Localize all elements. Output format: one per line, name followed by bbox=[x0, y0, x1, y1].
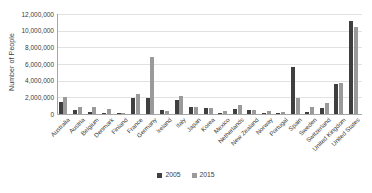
bar-2015 bbox=[165, 111, 169, 114]
y-tick-label: 6,000,000 bbox=[4, 61, 54, 68]
bar-2005 bbox=[175, 100, 179, 114]
bar-2015 bbox=[339, 83, 343, 114]
bar-2005 bbox=[218, 113, 222, 114]
bar-group bbox=[188, 14, 203, 114]
bar-2005 bbox=[189, 107, 193, 115]
bar-group bbox=[130, 14, 145, 114]
bar-group bbox=[318, 14, 333, 114]
bar-group bbox=[347, 14, 362, 114]
bar-2005 bbox=[320, 108, 324, 114]
bar-2015 bbox=[238, 105, 242, 114]
bar-group bbox=[304, 14, 319, 114]
chart-legend: 20052015 bbox=[0, 171, 372, 179]
bar-2015 bbox=[354, 27, 358, 115]
bar-2005 bbox=[233, 109, 237, 114]
bar-2005 bbox=[160, 110, 164, 114]
y-tick-label: 12,000,000 bbox=[4, 11, 54, 18]
bar-group bbox=[217, 14, 232, 114]
bar-2015 bbox=[179, 96, 183, 114]
bar-group bbox=[57, 14, 72, 114]
bar-2015 bbox=[281, 112, 285, 114]
bar-group bbox=[86, 14, 101, 114]
bar-group bbox=[289, 14, 304, 114]
legend-item[interactable]: 2005 bbox=[157, 171, 180, 179]
bar-2015 bbox=[194, 107, 198, 114]
bar-2015 bbox=[325, 103, 329, 114]
legend-item[interactable]: 2015 bbox=[192, 171, 215, 179]
y-tick-label: 8,000,000 bbox=[4, 44, 54, 51]
legend-swatch-icon bbox=[192, 173, 197, 178]
bar-2015 bbox=[150, 57, 154, 115]
bar-group bbox=[159, 14, 174, 114]
bar-2015 bbox=[267, 111, 271, 114]
y-tick-label: 2,000,000 bbox=[4, 94, 54, 101]
bar-group bbox=[333, 14, 348, 114]
bar-2015 bbox=[252, 110, 256, 114]
bar-chart: Number of People 12,000,00010,000,0008,0… bbox=[0, 0, 372, 193]
bar-2015 bbox=[78, 107, 82, 115]
bar-group bbox=[260, 14, 275, 114]
y-tick-label: 4,000,000 bbox=[4, 77, 54, 84]
bar-2015 bbox=[223, 111, 227, 114]
bar-group bbox=[144, 14, 159, 114]
bar-2005 bbox=[247, 110, 251, 114]
x-axis-tick-labels: AustraliaAustriaBelgiumDenmarkFinlandFra… bbox=[57, 116, 362, 162]
bar-2015 bbox=[296, 98, 300, 114]
bar-2005 bbox=[334, 84, 338, 114]
bar-2005 bbox=[291, 67, 295, 115]
bar-2005 bbox=[276, 113, 280, 114]
bar-group bbox=[173, 14, 188, 114]
y-axis-tick-labels: 12,000,00010,000,0008,000,0006,000,0004,… bbox=[0, 14, 54, 114]
bar-2015 bbox=[92, 107, 96, 115]
bar-2005 bbox=[204, 108, 208, 114]
bar-2015 bbox=[209, 108, 213, 114]
bar-2005 bbox=[117, 113, 121, 114]
bar-group bbox=[115, 14, 130, 114]
bar-group bbox=[246, 14, 261, 114]
legend-label: 2005 bbox=[165, 171, 180, 179]
bar-group bbox=[101, 14, 116, 114]
x-axis-line bbox=[57, 114, 362, 115]
bar-2005 bbox=[349, 21, 353, 114]
bar-2015 bbox=[107, 109, 111, 114]
bar-2015 bbox=[121, 113, 125, 114]
bar-2005 bbox=[146, 98, 150, 114]
bar-2005 bbox=[305, 112, 309, 115]
bar-group bbox=[72, 14, 87, 114]
bar-group bbox=[231, 14, 246, 114]
bar-group bbox=[202, 14, 217, 114]
legend-swatch-icon bbox=[157, 173, 162, 178]
bar-2005 bbox=[131, 98, 135, 114]
bar-2015 bbox=[136, 94, 140, 114]
legend-label: 2015 bbox=[200, 171, 215, 179]
bars-layer bbox=[57, 14, 362, 114]
bar-2005 bbox=[88, 112, 92, 115]
bar-2005 bbox=[102, 113, 106, 114]
bar-2005 bbox=[59, 102, 63, 115]
bar-2005 bbox=[262, 113, 266, 114]
y-tick-label: 0 bbox=[4, 111, 54, 118]
bar-2015 bbox=[310, 107, 314, 114]
bar-2015 bbox=[63, 97, 67, 115]
bar-2005 bbox=[73, 110, 77, 114]
bar-group bbox=[275, 14, 290, 114]
y-tick-label: 10,000,000 bbox=[4, 27, 54, 34]
